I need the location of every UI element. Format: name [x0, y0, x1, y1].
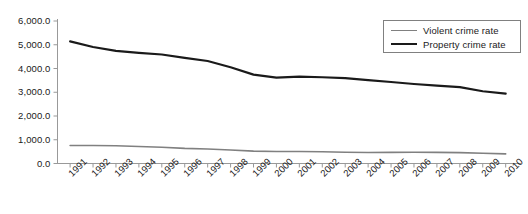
legend-label-property: Property crime rate — [423, 39, 506, 50]
y-tick-label: 6,000.0 — [18, 15, 50, 26]
series-line-violent-crime-rate — [70, 145, 506, 153]
legend-swatch-violent-icon — [391, 30, 417, 31]
legend-item-violent-crime-rate: Violent crime rate — [389, 23, 499, 37]
chart-legend: Violent crime rate Property crime rate — [383, 20, 521, 53]
legend-label-violent: Violent crime rate — [423, 25, 499, 36]
y-tick-label: 0.0 — [37, 158, 51, 169]
crime-rate-line-chart: 0.01,000.02,000.03,000.04,000.05,000.06,… — [0, 0, 528, 214]
y-tick-label: 1,000.0 — [18, 134, 50, 145]
y-tick-label: 5,000.0 — [18, 39, 50, 50]
y-tick-label: 2,000.0 — [18, 110, 50, 121]
y-tick-label: 4,000.0 — [18, 63, 50, 74]
legend-item-property-crime-rate: Property crime rate — [389, 37, 506, 51]
y-axis-ticks — [54, 21, 58, 164]
legend-swatch-property-icon — [391, 43, 417, 45]
y-tick-label: 3,000.0 — [18, 86, 50, 97]
data-series-group — [70, 41, 506, 153]
